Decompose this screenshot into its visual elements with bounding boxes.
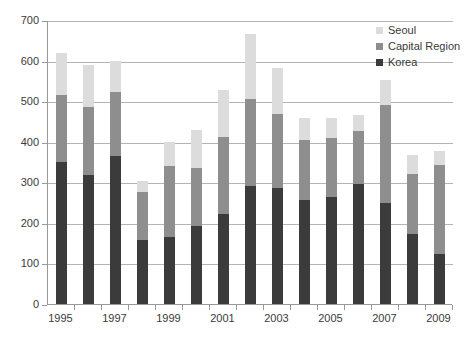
bar-segment-seoul[interactable] bbox=[353, 115, 364, 131]
y-axis-tick-label: 100 bbox=[0, 258, 39, 269]
y-axis-tick-label: 600 bbox=[0, 56, 39, 67]
bar-segment-seoul[interactable] bbox=[299, 118, 310, 141]
x-axis-tick bbox=[101, 305, 102, 310]
chart-legend: SeoulCapital RegionKorea bbox=[376, 22, 466, 70]
legend-item[interactable]: Korea bbox=[376, 54, 466, 70]
x-axis-tick bbox=[74, 305, 75, 310]
bar-group[interactable] bbox=[137, 20, 148, 304]
bar-segment-seoul[interactable] bbox=[137, 181, 148, 192]
bar-segment-korea[interactable] bbox=[353, 184, 364, 304]
bar-group[interactable] bbox=[110, 20, 121, 304]
y-axis-tick-label: 200 bbox=[0, 218, 39, 229]
bar-segment-korea[interactable] bbox=[299, 200, 310, 304]
bar-segment-seoul[interactable] bbox=[56, 53, 67, 95]
legend-label: Korea bbox=[388, 57, 417, 68]
bar-segment-korea[interactable] bbox=[137, 240, 148, 304]
bar-segment-capital-region[interactable] bbox=[110, 92, 121, 156]
bar-segment-korea[interactable] bbox=[218, 214, 229, 304]
x-axis-tick-label: 2001 bbox=[198, 313, 248, 324]
bar-segment-seoul[interactable] bbox=[380, 80, 391, 105]
x-axis-tick-label: 2009 bbox=[414, 313, 464, 324]
x-axis-tick bbox=[155, 305, 156, 310]
bar-segment-korea[interactable] bbox=[245, 186, 256, 304]
bar-group[interactable] bbox=[218, 20, 229, 304]
x-axis-tick bbox=[128, 305, 129, 310]
bar-segment-seoul[interactable] bbox=[245, 34, 256, 99]
bar-segment-korea[interactable] bbox=[326, 197, 337, 304]
bar-segment-capital-region[interactable] bbox=[245, 99, 256, 186]
bar-segment-seoul[interactable] bbox=[83, 65, 94, 107]
bar-segment-seoul[interactable] bbox=[407, 155, 418, 174]
bar-group[interactable] bbox=[245, 20, 256, 304]
bar-group[interactable] bbox=[299, 20, 310, 304]
bar-segment-seoul[interactable] bbox=[191, 130, 202, 168]
bar-segment-korea[interactable] bbox=[407, 234, 418, 304]
bar-segment-capital-region[interactable] bbox=[191, 168, 202, 226]
bar-segment-korea[interactable] bbox=[380, 203, 391, 304]
bar-segment-seoul[interactable] bbox=[218, 90, 229, 137]
bar-segment-seoul[interactable] bbox=[434, 151, 445, 165]
bar-segment-seoul[interactable] bbox=[326, 118, 337, 138]
x-axis-tick bbox=[371, 305, 372, 310]
bar-segment-capital-region[interactable] bbox=[83, 107, 94, 175]
legend-item[interactable]: Capital Region bbox=[376, 38, 466, 54]
bar-segment-korea[interactable] bbox=[191, 226, 202, 304]
bar-segment-seoul[interactable] bbox=[110, 61, 121, 92]
legend-label: Capital Region bbox=[388, 41, 460, 52]
legend-swatch-icon bbox=[376, 27, 383, 34]
x-axis-tick bbox=[290, 305, 291, 310]
bar-segment-korea[interactable] bbox=[56, 162, 67, 304]
bar-segment-capital-region[interactable] bbox=[434, 165, 445, 254]
x-axis-tick bbox=[209, 305, 210, 310]
y-axis-tick bbox=[42, 305, 47, 306]
x-axis-tick bbox=[317, 305, 318, 310]
y-axis-tick-label: 500 bbox=[0, 96, 39, 107]
y-axis-tick-label: 0 bbox=[0, 299, 39, 310]
x-axis-tick bbox=[236, 305, 237, 310]
bar-segment-seoul[interactable] bbox=[272, 68, 283, 114]
bar-segment-capital-region[interactable] bbox=[56, 95, 67, 162]
bar-segment-capital-region[interactable] bbox=[299, 140, 310, 200]
bar-group[interactable] bbox=[56, 20, 67, 304]
x-axis-tick-label: 1997 bbox=[90, 313, 140, 324]
x-axis-tick bbox=[452, 305, 453, 310]
bar-chart: 0100200300400500600700 19951997199920012… bbox=[0, 0, 467, 345]
bar-segment-capital-region[interactable] bbox=[380, 105, 391, 202]
y-axis-tick-label: 700 bbox=[0, 15, 39, 26]
bar-segment-capital-region[interactable] bbox=[137, 192, 148, 241]
x-axis-tick bbox=[263, 305, 264, 310]
x-axis-tick-label: 2007 bbox=[360, 313, 410, 324]
x-axis-tick-label: 2005 bbox=[306, 313, 356, 324]
bar-group[interactable] bbox=[191, 20, 202, 304]
x-axis-tick bbox=[344, 305, 345, 310]
bar-segment-seoul[interactable] bbox=[164, 142, 175, 166]
bar-segment-korea[interactable] bbox=[83, 175, 94, 304]
legend-label: Seoul bbox=[388, 25, 416, 36]
legend-item[interactable]: Seoul bbox=[376, 22, 466, 38]
bar-group[interactable] bbox=[83, 20, 94, 304]
legend-swatch-icon bbox=[376, 59, 383, 66]
bar-segment-korea[interactable] bbox=[164, 237, 175, 304]
bar-segment-capital-region[interactable] bbox=[407, 174, 418, 234]
x-axis-tick bbox=[398, 305, 399, 310]
bar-segment-capital-region[interactable] bbox=[164, 166, 175, 237]
x-axis-tick bbox=[425, 305, 426, 310]
bar-group[interactable] bbox=[353, 20, 364, 304]
y-axis-tick-label: 300 bbox=[0, 177, 39, 188]
bar-segment-capital-region[interactable] bbox=[272, 114, 283, 187]
bar-group[interactable] bbox=[326, 20, 337, 304]
bar-group[interactable] bbox=[272, 20, 283, 304]
bar-segment-korea[interactable] bbox=[110, 156, 121, 304]
y-axis-tick-label: 400 bbox=[0, 137, 39, 148]
bar-segment-capital-region[interactable] bbox=[326, 138, 337, 197]
x-axis-tick-label: 1999 bbox=[144, 313, 194, 324]
x-axis-tick bbox=[182, 305, 183, 310]
x-axis-tick-label: 1995 bbox=[36, 313, 86, 324]
bar-group[interactable] bbox=[164, 20, 175, 304]
bar-segment-korea[interactable] bbox=[272, 188, 283, 304]
bar-segment-capital-region[interactable] bbox=[353, 131, 364, 185]
x-axis-tick-label: 2003 bbox=[252, 313, 302, 324]
legend-swatch-icon bbox=[376, 43, 383, 50]
bar-segment-korea[interactable] bbox=[434, 254, 445, 304]
bar-segment-capital-region[interactable] bbox=[218, 137, 229, 213]
